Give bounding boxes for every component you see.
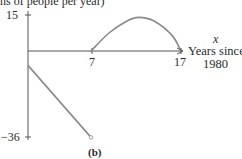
segment-1-line <box>28 65 91 137</box>
series-layer <box>28 17 183 139</box>
segment-2-line <box>91 17 181 51</box>
open-endpoint-marker <box>89 136 93 140</box>
chart-plot <box>0 0 242 159</box>
